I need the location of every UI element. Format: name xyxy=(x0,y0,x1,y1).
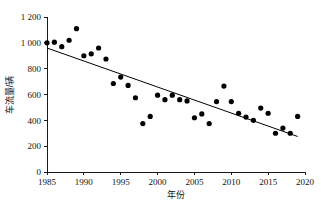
data-point xyxy=(295,114,300,119)
x-tick-label: 1995 xyxy=(112,177,131,187)
data-points-group xyxy=(44,26,300,136)
x-tick-label: 1985 xyxy=(38,177,57,187)
data-point xyxy=(273,131,278,136)
data-point xyxy=(148,114,153,119)
data-point xyxy=(96,45,101,50)
data-point xyxy=(133,95,138,100)
data-point xyxy=(140,121,145,126)
y-tick-label: 200 xyxy=(28,141,42,151)
data-point xyxy=(118,74,123,79)
x-tick-label: 2000 xyxy=(149,177,168,187)
data-point xyxy=(184,98,189,103)
x-axis-tick-labels: 19851990199520002005201020152020 xyxy=(38,177,315,187)
x-axis-group: 19851990199520002005201020152020 xyxy=(38,172,315,187)
x-tick-label: 2005 xyxy=(185,177,204,187)
data-point xyxy=(258,105,263,110)
data-point xyxy=(89,51,94,56)
data-point xyxy=(162,97,167,102)
data-point xyxy=(52,40,57,45)
data-point xyxy=(111,81,116,86)
data-point xyxy=(74,26,79,31)
x-tick-label: 2015 xyxy=(259,177,278,187)
data-point xyxy=(280,125,285,130)
y-tick-label: 400 xyxy=(28,116,42,126)
x-tick-label: 2020 xyxy=(296,177,315,187)
y-tick-label: 1 200 xyxy=(21,12,42,22)
data-point xyxy=(155,93,160,98)
data-point xyxy=(207,121,212,126)
x-tick-label: 2010 xyxy=(222,177,241,187)
trend-line xyxy=(47,48,298,136)
x-tick-label: 1990 xyxy=(75,177,94,187)
data-point xyxy=(229,99,234,104)
y-tick-label: 1 000 xyxy=(21,38,42,48)
data-point xyxy=(81,53,86,58)
data-point xyxy=(266,111,271,116)
data-point xyxy=(177,97,182,102)
data-point xyxy=(192,115,197,120)
data-point xyxy=(221,84,226,89)
data-point xyxy=(44,40,49,45)
data-point xyxy=(67,38,72,43)
scatter-plot: 02004006008001 0001 200 1985199019952000… xyxy=(0,0,321,209)
data-point xyxy=(103,56,108,61)
data-point xyxy=(214,99,219,104)
data-point xyxy=(199,111,204,116)
data-point xyxy=(125,83,130,88)
y-axis-tick-labels: 02004006008001 0001 200 xyxy=(21,12,42,177)
data-point xyxy=(59,44,64,49)
y-tick-label: 0 xyxy=(37,167,42,177)
chart-container: 02004006008001 0001 200 1985199019952000… xyxy=(0,0,321,209)
y-axis-title: 车流量/辆 xyxy=(4,76,15,115)
y-tick-label: 600 xyxy=(28,90,42,100)
x-axis-title: 年份 xyxy=(167,189,185,200)
y-axis-group: 02004006008001 0001 200 xyxy=(21,12,47,177)
y-tick-label: 800 xyxy=(28,64,42,74)
